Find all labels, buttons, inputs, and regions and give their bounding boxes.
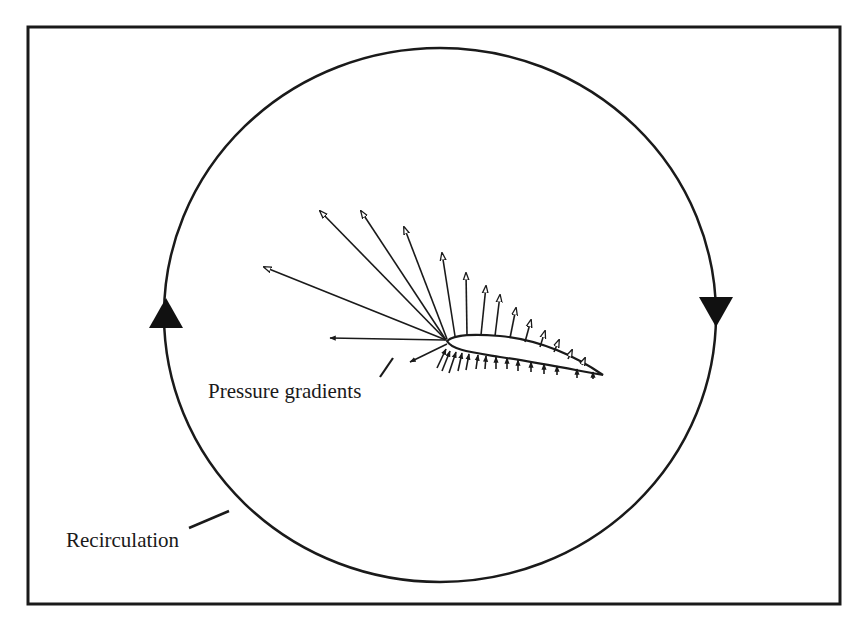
- recirculation-label: Recirculation: [66, 528, 179, 553]
- recirculation-leader-line: [189, 511, 229, 528]
- pressure-leader-line: [380, 358, 393, 377]
- recirculation-circle: [164, 48, 716, 582]
- pressure-vectors-leading-edge: [330, 338, 447, 362]
- arrow-down-icon: [699, 297, 733, 327]
- pressure-vectors-upper: [264, 211, 585, 365]
- pressure-gradients-label: Pressure gradients: [208, 379, 361, 404]
- arrow-up-icon: [149, 298, 183, 328]
